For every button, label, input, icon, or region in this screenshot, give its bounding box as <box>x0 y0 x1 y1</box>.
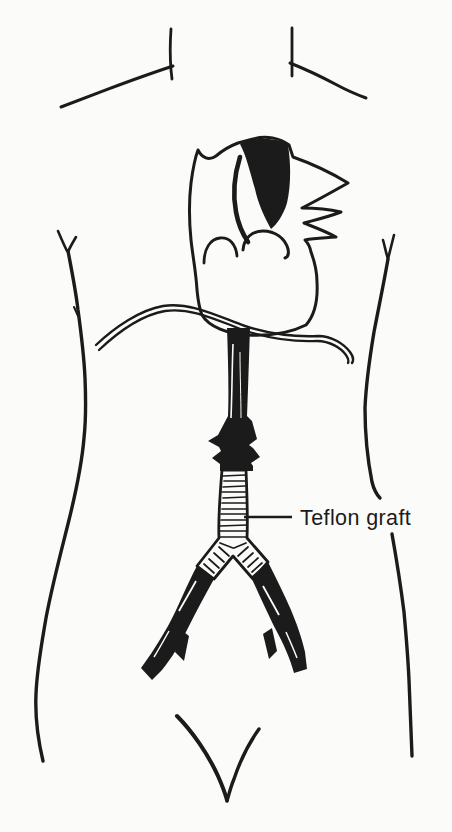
iliac-vessel-right <box>251 562 307 673</box>
ascending-aorta-groove <box>234 157 248 242</box>
heart <box>190 137 349 335</box>
teflon-graft <box>197 470 268 579</box>
iliac-vessels <box>141 562 307 680</box>
pubis-outline-right <box>227 729 259 801</box>
descending-aorta <box>208 328 260 471</box>
pubis-outline-left <box>177 716 227 800</box>
graft-annotation: Teflon graft <box>244 506 411 530</box>
right-shoulder-line <box>290 63 366 98</box>
medical-illustration: Teflon graft <box>0 0 452 832</box>
right-atrial-appendage-line <box>243 231 288 258</box>
aorta-band <box>208 328 260 471</box>
aortic-arch-mass <box>240 139 290 229</box>
torso-outline <box>36 28 412 801</box>
right-side-line-upper <box>365 259 388 498</box>
graft-rib-lines <box>199 475 266 578</box>
graft-label: Teflon graft <box>300 506 411 530</box>
left-side-line <box>36 251 86 761</box>
iliac-vessel-left <box>141 566 214 680</box>
right-side-line-lower <box>392 534 412 756</box>
left-shoulder-line <box>61 66 173 107</box>
right-armpit-fork <box>383 235 394 259</box>
left-atrial-appendage-line <box>204 238 237 263</box>
diaphragm-upper-stroke <box>96 305 353 363</box>
figure-canvas: Teflon graft <box>0 0 452 832</box>
diaphragm-line <box>96 305 353 363</box>
iliac-branch-right <box>263 628 277 659</box>
left-neck-line <box>170 29 172 79</box>
left-armpit-fork <box>58 231 76 252</box>
